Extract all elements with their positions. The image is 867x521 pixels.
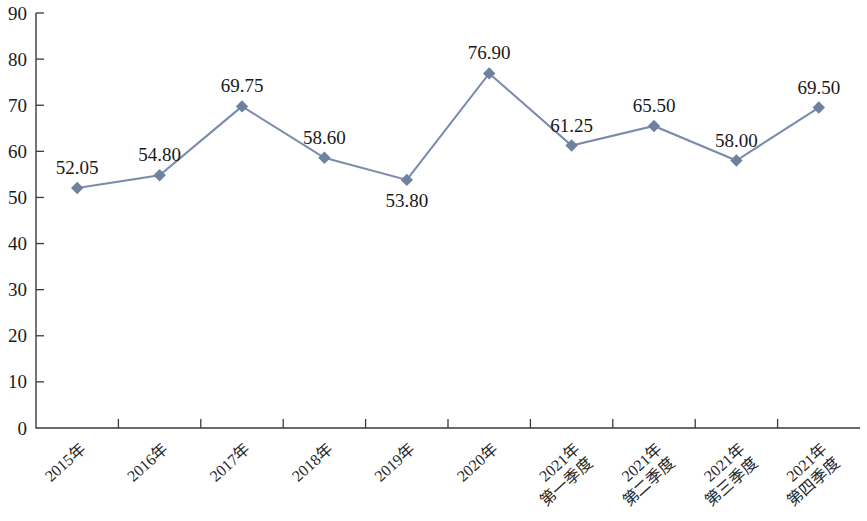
data-point-marker xyxy=(71,182,83,194)
x-axis-category-line: 2020年 xyxy=(454,440,501,485)
y-axis-tick-label: 80 xyxy=(8,49,27,70)
data-series xyxy=(71,67,825,194)
x-axis-tick-labels: 2015年2016年2017年2018年2019年2020年2021年第一季度2… xyxy=(42,440,843,510)
data-value-label: 54.80 xyxy=(138,144,181,165)
data-value-label: 65.50 xyxy=(633,95,676,116)
y-axis-tick-label: 50 xyxy=(8,187,27,208)
y-axis-tick-label: 70 xyxy=(8,95,27,116)
x-axis-category-label: 2020年 xyxy=(454,440,501,485)
data-value-label: 61.25 xyxy=(550,115,593,136)
y-axis-tick-marks xyxy=(36,13,44,382)
y-axis-tick-label: 90 xyxy=(8,3,27,24)
data-value-label: 69.50 xyxy=(797,77,840,98)
x-axis-category-label: 2016年 xyxy=(124,440,171,485)
x-axis-category-label: 2021年第二季度 xyxy=(606,440,678,510)
x-axis-category-text: 2021年第四季度 xyxy=(771,440,843,510)
x-axis-category-label: 2015年 xyxy=(42,440,89,485)
x-axis-category-line: 2016年 xyxy=(124,440,171,485)
x-axis-category-text: 2017年 xyxy=(206,440,253,485)
x-axis-category-line: 2015年 xyxy=(42,440,89,485)
y-axis-tick-label: 60 xyxy=(8,141,27,162)
data-value-label: 52.05 xyxy=(56,157,99,178)
data-point-marker xyxy=(730,154,742,166)
data-point-marker xyxy=(318,152,330,164)
x-axis-tick-marks xyxy=(118,419,777,428)
x-axis-category-text: 2020年 xyxy=(454,440,501,485)
y-axis-tick-label: 30 xyxy=(8,279,27,300)
x-axis-category-text: 2016年 xyxy=(124,440,171,485)
x-axis-category-label: 2021年第一季度 xyxy=(524,440,596,510)
y-axis-tick-label: 0 xyxy=(18,418,28,439)
data-point-marker xyxy=(648,120,660,132)
x-axis-category-line: 2019年 xyxy=(371,440,418,485)
data-value-label: 76.90 xyxy=(468,42,511,63)
data-value-label: 53.80 xyxy=(385,190,428,211)
y-axis-tick-label: 40 xyxy=(8,233,27,254)
data-value-label: 58.00 xyxy=(715,130,758,151)
x-axis-category-text: 2021年第三季度 xyxy=(689,440,761,510)
x-axis-category-label: 2017年 xyxy=(206,440,253,485)
y-axis-tick-label: 10 xyxy=(8,371,27,392)
x-axis-category-label: 2019年 xyxy=(371,440,418,485)
x-axis-category-text: 2015年 xyxy=(42,440,89,485)
data-value-label: 58.60 xyxy=(303,127,346,148)
line-chart: 0102030405060708090 52.0554.8069.7558.60… xyxy=(0,0,867,521)
data-point-marker xyxy=(813,101,825,113)
data-value-label: 69.75 xyxy=(221,75,264,96)
chart-canvas: 0102030405060708090 52.0554.8069.7558.60… xyxy=(0,0,867,521)
x-axis-category-label: 2021年第四季度 xyxy=(771,440,843,510)
x-axis-category-text: 2018年 xyxy=(289,440,336,485)
x-axis-category-line: 2018年 xyxy=(289,440,336,485)
x-axis-category-text: 2019年 xyxy=(371,440,418,485)
chart-axes xyxy=(36,13,860,428)
x-axis-category-label: 2021年第三季度 xyxy=(689,440,761,510)
axis-frame-path xyxy=(36,13,860,428)
series-markers xyxy=(71,67,825,194)
x-axis-category-text: 2021年第二季度 xyxy=(606,440,678,510)
y-axis-tick-labels: 0102030405060708090 xyxy=(8,3,27,439)
x-axis-category-text: 2021年第一季度 xyxy=(524,440,596,510)
series-line-path xyxy=(77,73,819,188)
x-axis-category-label: 2018年 xyxy=(289,440,336,485)
x-axis-category-line: 2017年 xyxy=(206,440,253,485)
y-axis-tick-label: 20 xyxy=(8,325,27,346)
